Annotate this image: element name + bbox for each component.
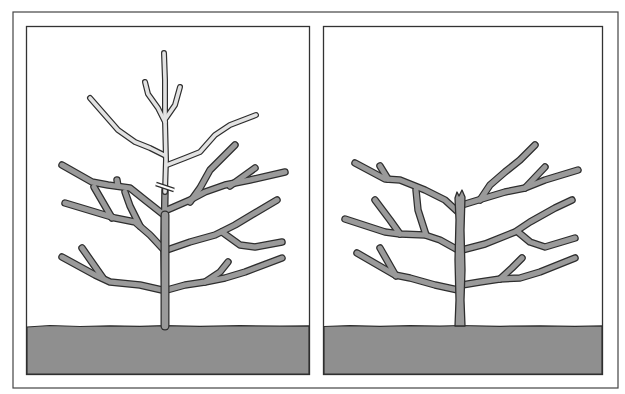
ground-before <box>27 326 309 375</box>
panel-after <box>324 27 603 375</box>
ground-after <box>324 326 602 375</box>
trunk-after <box>455 190 465 326</box>
panel-before <box>27 27 310 375</box>
pruning-illustration <box>0 0 625 394</box>
